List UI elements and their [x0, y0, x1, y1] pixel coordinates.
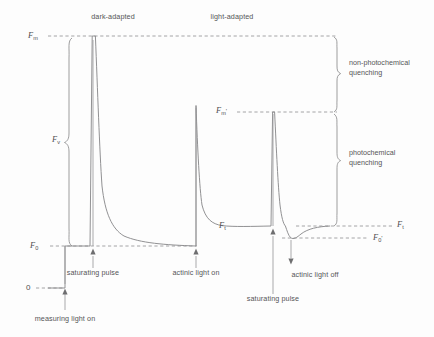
- brace-label-non-photochemical-quenching: non-photochemical quenching: [349, 58, 410, 78]
- axis-label-f0-prime: F0': [373, 233, 383, 242]
- axis-label-ft-right: Ft: [397, 220, 404, 229]
- axis-label-f0-sub: 0: [35, 245, 38, 251]
- axis-label-f0: F0: [30, 241, 38, 250]
- brace-fv: [65, 38, 73, 246]
- event-label-actinic-light-off: actinic light off: [291, 270, 338, 279]
- event-line-measuring-light-on: [62, 246, 67, 310]
- event-label-measuring-light-on: measuring light on: [35, 314, 96, 323]
- phase-label-light-adapted: light-adapted: [211, 12, 254, 21]
- trace-actinic-light-off-relaxation: [285, 226, 330, 239]
- trace-baseline-to-f0: [48, 246, 90, 288]
- trace-actinic-light-on: [196, 106, 271, 247]
- brace-label-pq-line2: quenching: [349, 158, 395, 168]
- brace-label-photochemical-quenching: photochemical quenching: [349, 148, 395, 168]
- event-label-saturating-pulse-1: saturating pulse: [67, 268, 119, 277]
- figure-canvas: dark-adapted light-adapted Fm Fv F0 0 Fm…: [0, 0, 434, 337]
- axis-label-fm-prime-mark: ': [226, 107, 227, 115]
- axis-label-f0-prime-mark: ': [381, 234, 382, 242]
- brace-label-npq-line2: quenching: [349, 68, 410, 78]
- phase-label-dark-adapted: dark-adapted: [91, 12, 135, 21]
- trace-saturating-pulse-1: [90, 36, 196, 246]
- axis-label-ft-left-sub: t: [224, 225, 226, 231]
- axis-label-zero: 0: [26, 283, 30, 292]
- axis-label-fv: Fv: [52, 135, 60, 144]
- event-line-actinic-light-on: [193, 108, 198, 268]
- fluorescence-trace-plot: [0, 0, 434, 337]
- axis-label-ft-left: Ft: [219, 221, 226, 230]
- axis-label-ft-right-sub: t: [402, 224, 404, 230]
- event-label-actinic-light-on: actinic light on: [172, 268, 219, 277]
- axis-label-fm-prime: Fm': [216, 106, 227, 115]
- brace-photochemical-quenching: [334, 114, 341, 226]
- brace-label-npq-line1: non-photochemical: [349, 58, 410, 68]
- event-label-saturating-pulse-2: saturating pulse: [247, 294, 299, 303]
- axis-label-fm: Fm: [28, 31, 38, 40]
- axis-label-fm-sub: m: [33, 35, 38, 41]
- axis-label-fv-sub: v: [57, 139, 60, 145]
- brace-non-photochemical-quenching: [334, 37, 341, 112]
- event-line-actinic-light-off: [288, 240, 293, 265]
- brace-label-pq-line1: photochemical: [349, 148, 395, 158]
